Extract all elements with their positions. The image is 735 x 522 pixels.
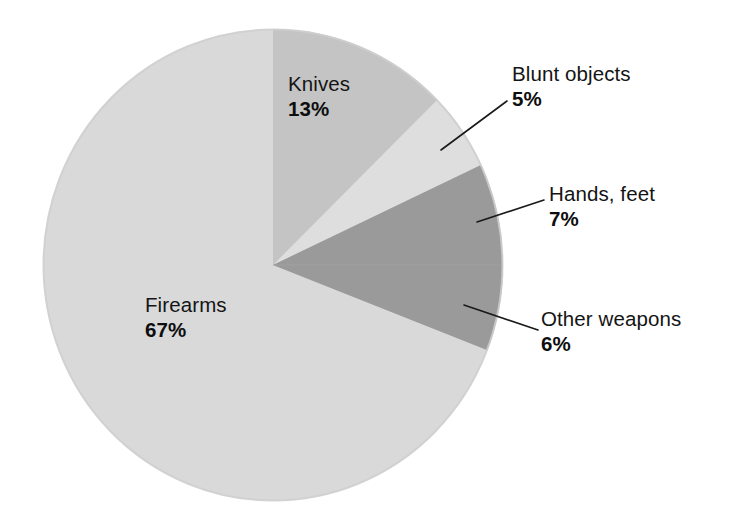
slice-label-hands-feet-title: Hands, feet	[549, 182, 655, 206]
slice-label-knives-title: Knives	[288, 72, 350, 96]
slice-label-firearms: Firearms 67%	[145, 293, 227, 342]
slice-label-hands-feet: Hands, feet 7%	[549, 182, 655, 231]
slice-label-other-weapons: Other weapons 6%	[541, 307, 681, 356]
slice-label-knives: Knives 13%	[288, 72, 350, 121]
slice-label-firearms-value: 67%	[145, 318, 227, 342]
slice-label-other-weapons-value: 6%	[541, 332, 681, 356]
slice-label-blunt-objects-title: Blunt objects	[512, 62, 631, 86]
slice-label-blunt-objects: Blunt objects 5%	[512, 62, 631, 111]
slice-label-firearms-title: Firearms	[145, 293, 227, 317]
pie-chart: Knives 13% Blunt objects 5% Hands, feet …	[0, 0, 735, 522]
slice-label-knives-value: 13%	[288, 97, 350, 121]
slice-label-blunt-objects-value: 5%	[512, 87, 631, 111]
slice-label-hands-feet-value: 7%	[549, 207, 655, 231]
slice-label-other-weapons-title: Other weapons	[541, 307, 681, 331]
